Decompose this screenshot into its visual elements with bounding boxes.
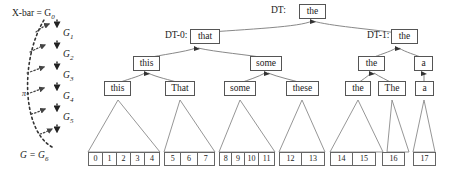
- node-dt0-that[interactable]: that: [190, 29, 220, 44]
- leaf-group-5: 16: [382, 152, 405, 166]
- leaf-cell: 0: [89, 153, 103, 165]
- dt1-tag-label: DT-1:: [367, 31, 389, 41]
- leaf-cell: 2: [117, 153, 131, 165]
- figure-canvas: X-bar = G0 G1 G2 G3 G4 G5 G = G6 π: [0, 0, 459, 172]
- leaf-cell: 1: [103, 153, 117, 165]
- node-l2-this[interactable]: this: [133, 56, 160, 71]
- leaf-cell: 3: [131, 153, 145, 165]
- leaf-group-2: 8 9 10 11: [219, 152, 275, 166]
- leaf-cell: 13: [302, 153, 324, 165]
- leaf-cell: 17: [414, 153, 435, 165]
- leaf-cell: 12: [280, 153, 302, 165]
- node-l3-that[interactable]: That: [165, 81, 195, 96]
- node-l3-the-cap[interactable]: The: [378, 81, 406, 96]
- leaf-cell: 6: [181, 153, 197, 165]
- node-l2-some[interactable]: some: [250, 56, 282, 71]
- leaf-group-0: 0 1 2 3 4: [88, 152, 160, 166]
- leaf-group-1: 5 6 7: [164, 152, 215, 166]
- leaf-group-4: 14 15: [330, 152, 376, 166]
- root-node-the[interactable]: the: [299, 4, 326, 19]
- node-dt1-the[interactable]: the: [391, 29, 418, 44]
- node-l2-a[interactable]: a: [414, 56, 433, 71]
- leaf-cell: 9: [232, 153, 244, 165]
- node-l3-this[interactable]: this: [104, 81, 131, 96]
- node-l3-some[interactable]: some: [224, 81, 256, 96]
- node-l3-these[interactable]: these: [286, 81, 319, 96]
- leaf-cell: 10: [245, 153, 260, 165]
- leaf-cell: 7: [198, 153, 214, 165]
- leaf-group-3: 12 13: [279, 152, 325, 166]
- leaf-cell: 8: [220, 153, 232, 165]
- root-tag-label: DT:: [271, 6, 286, 16]
- node-l3-the[interactable]: the: [345, 81, 371, 96]
- node-l3-a[interactable]: a: [415, 81, 434, 96]
- leaf-cell: 15: [353, 153, 375, 165]
- leaf-cell: 11: [259, 153, 274, 165]
- leaf-cell: 14: [331, 153, 353, 165]
- leaf-cell: 16: [383, 153, 404, 165]
- node-l2-the[interactable]: the: [358, 56, 385, 71]
- leaf-cell: 4: [145, 153, 159, 165]
- leaf-cell: 5: [165, 153, 181, 165]
- leaf-group-6: 17: [413, 152, 436, 166]
- dt0-tag-label: DT-0:: [165, 31, 187, 41]
